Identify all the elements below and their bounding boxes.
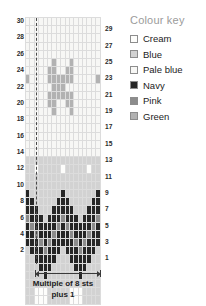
chart-cell	[96, 214, 100, 222]
chart-row	[26, 50, 101, 58]
chart-cell	[96, 189, 100, 197]
arrow-head-left-icon	[35, 271, 39, 277]
chart-cell	[96, 18, 100, 26]
row-numbers-right: 0290270250230210190170150130110907050301	[103, 17, 123, 263]
chart-row	[26, 222, 101, 230]
row-number: 24	[4, 66, 24, 74]
legend-item-blue: Blue	[130, 49, 206, 60]
row-number: 19	[103, 107, 123, 115]
chart-row	[26, 173, 101, 181]
legend-item-cream: Cream	[130, 33, 206, 44]
chart-row	[26, 189, 101, 197]
chart-cell	[96, 124, 100, 132]
chart-cell	[96, 91, 100, 99]
chart-cell	[96, 42, 100, 50]
row-number: 25	[103, 58, 123, 66]
chart-cell	[96, 34, 100, 42]
chart-row	[26, 149, 101, 157]
chart-row	[26, 140, 101, 148]
row-number: 5	[103, 222, 123, 230]
chart-row	[26, 165, 101, 173]
legend-item-pink: Pink	[130, 95, 206, 106]
row-number: 4	[4, 230, 24, 238]
chart-row	[26, 124, 101, 132]
legend-item-green: Green	[130, 111, 206, 122]
chart-cell	[96, 140, 100, 148]
row-numbers-left: 3002802602402202001801601401201008060402…	[4, 17, 24, 263]
chart-row	[26, 108, 101, 116]
row-number: 13	[103, 156, 123, 164]
chart-cell	[96, 108, 100, 116]
row-number: 15	[103, 140, 123, 148]
colour-key-legend: Colour key CreamBluePale blueNavyPinkGre…	[130, 14, 206, 127]
chart-row	[26, 198, 101, 206]
legend-label: Navy	[143, 80, 165, 91]
caption-line-2: plus 1	[0, 290, 126, 301]
chart-row	[26, 42, 101, 50]
chart-row	[26, 247, 101, 255]
chart-cell	[96, 165, 100, 173]
chart-row	[26, 206, 101, 214]
legend-swatch-icon	[130, 50, 138, 58]
row-number: 20	[4, 99, 24, 107]
chart-area: 3002802602402202001801601401201008060402…	[0, 0, 126, 306]
legend-label: Cream	[143, 33, 172, 44]
row-number: 3	[103, 238, 123, 246]
legend-swatch-icon	[130, 66, 138, 74]
chart-row	[26, 255, 101, 263]
chart-row	[26, 91, 101, 99]
row-number: 29	[103, 25, 123, 33]
repeat-width-arrow	[35, 270, 101, 277]
row-number: 11	[103, 173, 123, 181]
row-number: 28	[4, 33, 24, 41]
legend-label: Blue	[143, 49, 162, 60]
chart-cell	[96, 173, 100, 181]
chart-cell	[96, 116, 100, 124]
row-number: 7	[103, 205, 123, 213]
legend-items: CreamBluePale blueNavyPinkGreen	[130, 33, 206, 122]
legend-label: Pale blue	[143, 64, 183, 75]
chart-row	[26, 75, 101, 83]
chart-row	[26, 181, 101, 189]
row-number: 1	[103, 254, 123, 262]
chart-cell	[96, 239, 100, 247]
arrow-bar	[38, 273, 98, 274]
chart-cell	[96, 58, 100, 66]
chart-row	[26, 18, 101, 26]
row-number: 17	[103, 123, 123, 131]
chart-row	[26, 58, 101, 66]
row-number: 21	[103, 91, 123, 99]
legend-swatch-icon	[130, 97, 138, 105]
row-number: 6	[4, 214, 24, 222]
row-number: 23	[103, 74, 123, 82]
chart-cell	[96, 26, 100, 34]
chart-cell	[96, 67, 100, 75]
row-number: 12	[4, 164, 24, 172]
chart-row	[26, 132, 101, 140]
chart-cell	[96, 230, 100, 238]
chart-cell	[96, 132, 100, 140]
chart-cell	[96, 181, 100, 189]
row-number: 30	[4, 17, 24, 25]
row-number: 9	[103, 189, 123, 197]
chart-cell	[96, 149, 100, 157]
chart-cell	[96, 247, 100, 255]
chart-row	[26, 239, 101, 247]
chart-cell	[96, 222, 100, 230]
chart-cell	[96, 206, 100, 214]
row-number: 26	[4, 50, 24, 58]
chart-row	[26, 26, 101, 34]
legend-swatch-icon	[130, 112, 138, 120]
chart-row	[26, 67, 101, 75]
legend-swatch-icon	[130, 35, 138, 43]
chart-row	[26, 214, 101, 222]
arrow-head-right-icon	[97, 271, 101, 277]
chart-cell	[96, 157, 100, 165]
legend-item-pale-blue: Pale blue	[130, 64, 206, 75]
chart-row	[26, 99, 101, 107]
chart-row	[26, 230, 101, 238]
row-number: 14	[4, 148, 24, 156]
repeat-caption: Multiple of 8 sts plus 1	[0, 279, 126, 300]
row-number: 10	[4, 181, 24, 189]
chart-cell	[96, 99, 100, 107]
